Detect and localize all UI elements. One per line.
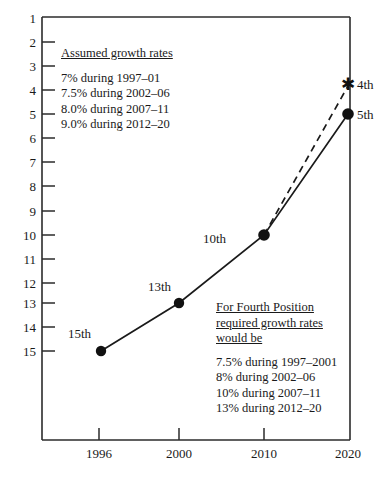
annotation-line: 7% during 1997–01 xyxy=(61,71,173,87)
y-tick-label: 6 xyxy=(30,131,37,146)
annotation-line: 13% during 2012–20 xyxy=(216,401,337,417)
rank-trend-chart: 1 2 3 4 5 6 7 8 9 10 11 12 13 14 15 1996… xyxy=(0,0,392,482)
annotation-line: 8.0% during 2007–11 xyxy=(61,102,173,118)
point-label-1996: 15th xyxy=(68,326,92,341)
data-point-2010 xyxy=(258,229,270,241)
y-tick-label: 4 xyxy=(30,83,37,98)
y-tick-label: 9 xyxy=(30,204,37,219)
y-axis-tick-labels: 1 2 3 4 5 6 7 8 9 10 11 12 13 14 15 xyxy=(23,11,37,359)
data-point-2000 xyxy=(174,298,184,308)
annotation-heading-line: required growth rates xyxy=(216,316,337,332)
annotation-line: 8% during 2002–06 xyxy=(216,370,337,386)
annotation-fourth-heading: For Fourth Position required growth rate… xyxy=(216,300,337,347)
point-label-2020: 5th xyxy=(357,107,374,122)
x-tick-label: 2010 xyxy=(251,446,277,461)
annotation-line: 10% during 2007–11 xyxy=(216,386,337,402)
data-point-2020 xyxy=(342,108,354,120)
y-tick-label: 2 xyxy=(30,35,37,50)
annotation-fourth-position: For Fourth Position required growth rate… xyxy=(216,300,337,417)
point-label-fourth: 4th xyxy=(357,77,374,92)
y-tick-label: 12 xyxy=(23,276,36,291)
x-tick-label: 2020 xyxy=(335,446,361,461)
data-point-1996 xyxy=(96,346,106,356)
annotation-fourth-body: 7.5% during 1997–2001 8% during 2002–06 … xyxy=(216,355,337,417)
annotation-line: 7.5% during 2002–06 xyxy=(61,86,173,102)
annotation-line: 9.0% during 2012–20 xyxy=(61,117,173,133)
y-tick-label: 14 xyxy=(23,320,37,335)
annotation-assumed-body: 7% during 1997–01 7.5% during 2002–06 8.… xyxy=(61,71,173,133)
y-tick-label: 13 xyxy=(23,296,36,311)
annotation-heading-line: would be xyxy=(216,331,337,347)
annotation-assumed-growth-rates: Assumed growth rates 7% during 1997–01 7… xyxy=(61,46,173,133)
asterisk-icon: ✱ xyxy=(341,75,355,94)
series-required-path-line xyxy=(264,86,348,235)
y-tick-label: 15 xyxy=(23,344,36,359)
y-tick-label: 11 xyxy=(23,252,36,267)
y-tick-label: 8 xyxy=(30,179,37,194)
x-axis-ticks xyxy=(99,428,264,440)
y-tick-label: 7 xyxy=(30,155,37,170)
annotation-heading-line: For Fourth Position xyxy=(216,300,337,316)
y-tick-label: 5 xyxy=(30,107,37,122)
annotation-line: 7.5% during 1997–2001 xyxy=(216,355,337,371)
point-label-2000: 13th xyxy=(148,279,172,294)
y-tick-label: 1 xyxy=(30,11,37,26)
y-tick-label: 10 xyxy=(23,228,36,243)
point-label-2010: 10th xyxy=(203,231,227,246)
y-tick-label: 3 xyxy=(30,59,37,74)
x-axis-tick-labels: 1996 2000 2010 2020 xyxy=(86,446,361,461)
annotation-assumed-heading: Assumed growth rates xyxy=(61,46,173,62)
x-tick-label: 2000 xyxy=(166,446,192,461)
x-tick-label: 1996 xyxy=(86,446,113,461)
y-axis-ticks xyxy=(42,42,55,351)
